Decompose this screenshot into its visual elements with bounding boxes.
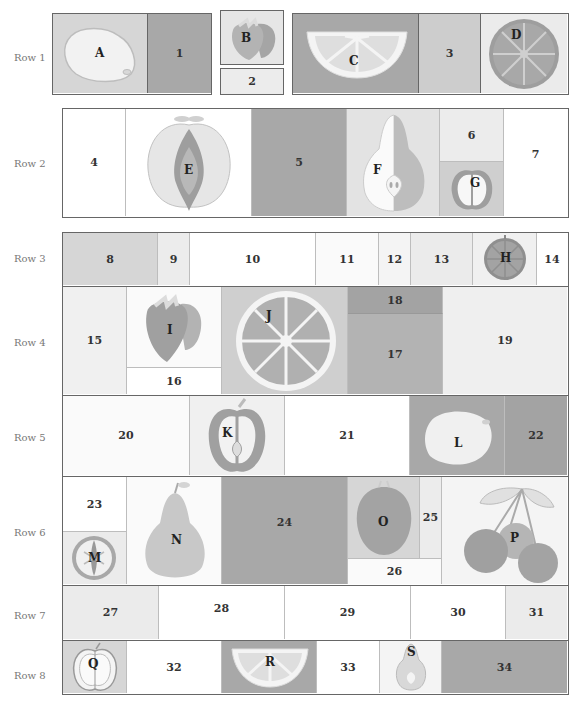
cell-E[interactable]: E [126,109,252,216]
number-33: 33 [340,661,355,674]
label-Q: Q [88,657,98,671]
cell-24[interactable]: 24 [222,477,348,584]
cell-12[interactable]: 12 [379,233,411,285]
row-label-6: Row 6 [14,527,46,538]
row2-panel: 4 E 5 F 6 G 7 [62,108,569,218]
cell-34[interactable]: 34 [442,641,567,693]
cherries-icon [450,479,560,583]
pear-icon [142,479,208,583]
cell-B[interactable]: B [220,10,284,65]
cell-5[interactable]: 5 [252,109,347,216]
apple-half-icon [205,397,269,475]
cell-O[interactable]: O [348,477,420,558]
label-I: I [167,323,173,337]
number-16: 16 [166,375,181,388]
cell-16[interactable]: 16 [127,368,222,394]
cell-14[interactable]: 14 [537,233,567,285]
label-K: K [222,426,232,440]
number-28: 28 [214,602,229,615]
cell-28[interactable]: 28 [159,586,285,639]
cell-S[interactable]: S [380,641,442,693]
cell-F[interactable]: F [347,109,440,216]
label-J: J [266,309,272,323]
row-label-2: Row 2 [14,158,46,169]
cell-10[interactable]: 10 [190,233,316,285]
cell-4[interactable]: 4 [63,109,126,216]
number-24: 24 [277,516,292,529]
row-label-8: Row 8 [14,670,46,681]
label-L: L [454,436,462,450]
number-7: 7 [532,148,540,161]
pear-half-icon [361,113,427,213]
label-H: H [500,251,511,265]
label-S: S [407,645,416,659]
cell-13[interactable]: 13 [411,233,473,285]
row3-panel: 8 9 10 11 12 13 H 14 [62,232,569,287]
label-B: B [241,31,251,45]
cell-32[interactable]: 32 [127,641,222,693]
cell-17[interactable]: 17 [348,314,443,394]
cell-K[interactable]: K [190,396,285,475]
label-P: P [510,531,519,545]
cell-N[interactable]: N [127,477,222,584]
row-label-7: Row 7 [14,610,46,621]
cell-8[interactable]: 8 [63,233,158,285]
label-M: M [88,551,101,565]
row-label-3: Row 3 [14,253,46,264]
number-31: 31 [529,606,544,619]
number-5: 5 [295,156,303,169]
cell-Q[interactable]: Q [63,641,127,693]
number-3: 3 [446,47,454,60]
orange-slice-icon [487,17,561,91]
number-34: 34 [497,661,512,674]
number-12: 12 [387,253,402,266]
cell-D[interactable]: D [481,14,567,93]
strawberry-icon [139,290,209,366]
number-27: 27 [103,606,118,619]
row8-panel: Q 32 R 33 S 34 [62,640,569,695]
cell-15[interactable]: 15 [63,287,127,394]
cell-26[interactable]: 26 [348,558,442,584]
number-11: 11 [339,253,354,266]
strawberry-icon [225,14,281,62]
cell-1[interactable]: 1 [148,14,211,93]
row-label-1: Row 1 [14,52,46,63]
cell-9[interactable]: 9 [158,233,190,285]
cell-J[interactable]: J [222,287,348,394]
cell-23[interactable]: 23 [63,477,127,532]
label-G: G [470,176,480,190]
cell-A[interactable]: A [53,14,148,93]
cell-2[interactable]: 2 [220,68,284,95]
cell-H[interactable]: H [473,233,537,285]
cell-29[interactable]: 29 [285,586,411,639]
cell-18[interactable]: 18 [348,287,443,314]
cell-I[interactable]: I [127,287,222,368]
number-32: 32 [166,661,181,674]
cell-27[interactable]: 27 [63,586,159,639]
cell-22[interactable]: 22 [505,396,567,475]
cell-33[interactable]: 33 [317,641,380,693]
number-23: 23 [87,498,102,511]
cell-31[interactable]: 31 [506,586,567,639]
row6-panel: 23 M N 24 O 25 26 [62,476,569,586]
number-17: 17 [387,348,402,361]
cell-25[interactable]: 25 [420,477,442,558]
cell-G[interactable]: G [440,162,504,216]
number-15: 15 [87,334,102,347]
cell-L[interactable]: L [410,396,505,475]
cell-P[interactable]: P [442,477,567,584]
row-label-5: Row 5 [14,432,46,443]
cell-7[interactable]: 7 [504,109,567,216]
label-F: F [373,163,382,177]
cell-6[interactable]: 6 [440,109,504,162]
cell-C[interactable]: C [293,14,419,93]
cell-19[interactable]: 19 [443,287,567,394]
cell-20[interactable]: 20 [63,396,190,475]
cell-30[interactable]: 30 [411,586,506,639]
cell-M[interactable]: M [63,532,127,584]
cell-11[interactable]: 11 [316,233,379,285]
cell-21[interactable]: 21 [285,396,410,475]
cell-3[interactable]: 3 [419,14,481,93]
cell-R[interactable]: R [222,641,317,693]
row-label-4: Row 4 [14,337,46,348]
